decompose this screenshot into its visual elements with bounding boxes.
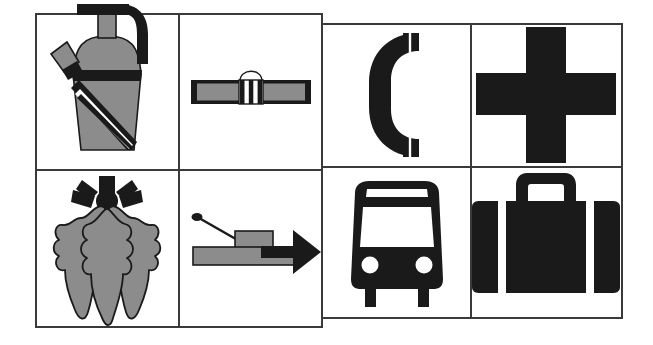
extinguisher-handle-bar xyxy=(77,4,129,15)
suitcase-pocket-left xyxy=(472,201,498,293)
belt-buckle-bar-1 xyxy=(240,80,245,104)
bus-wheel-right xyxy=(418,289,429,307)
belt-strap-right xyxy=(261,81,309,103)
bus-destination-sign xyxy=(366,189,428,197)
belt-end-cap-left xyxy=(191,80,197,104)
lever-knob xyxy=(192,213,203,221)
belt-strap-left xyxy=(193,81,241,103)
belt-buckle-bar-3 xyxy=(258,80,263,104)
suitcase-main-body xyxy=(506,201,586,293)
bus-wheel-left xyxy=(365,289,376,307)
pictogram-sheet xyxy=(0,0,653,345)
suitcase-pocket-right xyxy=(594,201,620,293)
pictogram-sheet-canvas xyxy=(0,0,653,345)
extinguisher-neck xyxy=(98,14,116,38)
bus-headlight-left xyxy=(362,257,379,274)
bus-icon xyxy=(351,181,443,307)
bus-windshield xyxy=(360,207,434,247)
bus-headlight-right xyxy=(416,257,433,274)
belt-end-cap-right xyxy=(305,80,311,104)
belt-buckle-bar-2 xyxy=(249,80,254,104)
